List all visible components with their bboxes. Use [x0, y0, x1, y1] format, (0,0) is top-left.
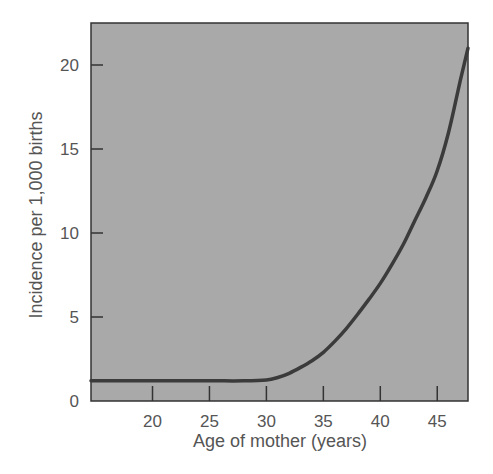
x-tick-label: 35 — [314, 412, 333, 431]
y-tick-label: 0 — [70, 392, 79, 411]
x-tick-label: 25 — [200, 412, 219, 431]
chart: 202530354045 05101520 Age of mother (yea… — [0, 0, 493, 474]
y-axis-label: Incidence per 1,000 births — [26, 111, 46, 318]
y-tick-label: 5 — [70, 308, 79, 327]
y-tick-label: 10 — [60, 224, 79, 243]
x-tick-label: 20 — [143, 412, 162, 431]
x-tick-label: 45 — [428, 412, 447, 431]
plot-area — [91, 23, 468, 401]
x-tick-label: 30 — [257, 412, 276, 431]
y-tick-label: 20 — [60, 56, 79, 75]
x-tick-label: 40 — [371, 412, 390, 431]
x-axis-label: Age of mother (years) — [193, 431, 367, 451]
y-tick-label: 15 — [60, 140, 79, 159]
